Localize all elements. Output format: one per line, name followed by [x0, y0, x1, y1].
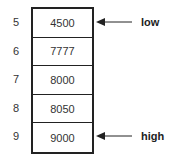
index-5: 5 [10, 16, 22, 28]
index-7: 7 [10, 73, 22, 85]
arrow-left-icon [96, 17, 132, 27]
arrow-left-icon [96, 131, 132, 141]
low-pointer-label: low [141, 16, 159, 28]
array-cell: 8050 [33, 95, 92, 124]
index-6: 6 [10, 45, 22, 57]
high-pointer-label: high [141, 130, 164, 142]
array-cell: 8000 [33, 66, 92, 95]
array-box: 4500 7777 8000 8050 9000 [31, 7, 94, 154]
array-cell: 4500 [33, 9, 92, 38]
index-8: 8 [10, 102, 22, 114]
array-cell: 7777 [33, 38, 92, 67]
index-9: 9 [10, 130, 22, 142]
array-cell: 9000 [33, 123, 92, 152]
